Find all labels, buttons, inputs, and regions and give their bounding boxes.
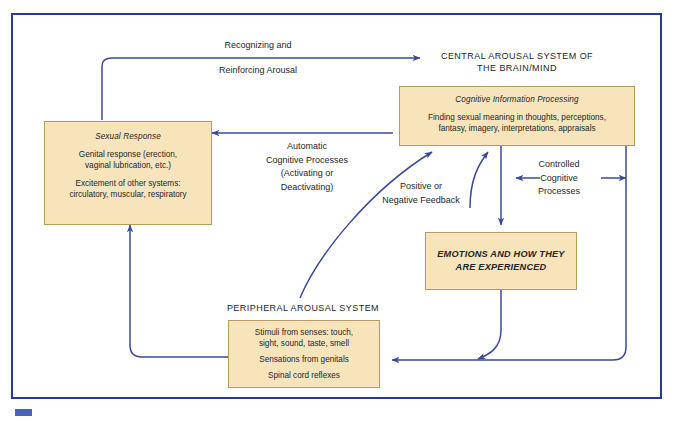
central-heading-line-2: THE BRAIN/MIND: [428, 62, 606, 74]
corner-color-mark: [15, 409, 32, 416]
central-arousal-heading: CENTRAL AROUSAL SYSTEM OF THE BRAIN/MIND: [428, 50, 606, 74]
sexual-response-line-4: circulatory, muscular, respiratory: [45, 189, 211, 200]
label-positive-negative-feedback: Positive or Negative Feedback: [365, 180, 477, 207]
label-reinforcing-arousal: Reinforcing Arousal: [175, 64, 341, 78]
peripheral-arousal-box: Stimuli from senses: touch, sight, sound…: [228, 320, 380, 388]
feedback-line-2: Negative Feedback: [365, 194, 477, 208]
controlled-line-2: Cognitive: [524, 172, 594, 186]
label-recognizing: Recognizing and: [175, 39, 341, 53]
cognitive-box-line-1: Finding sexual meaning in thoughts, perc…: [400, 112, 634, 123]
automatic-line-2: Cognitive Processes: [241, 154, 373, 168]
peripheral-line-3: Sensations from genitals: [229, 354, 379, 365]
automatic-line-1: Automatic: [241, 140, 373, 154]
emotions-line-1: EMOTIONS AND HOW THEY: [437, 248, 564, 261]
automatic-line-4: Deactivating): [241, 181, 373, 195]
sexual-response-title: Sexual Response: [45, 131, 211, 142]
controlled-line-1: Controlled: [524, 158, 594, 172]
sexual-response-line-1: Genital response (erection,: [45, 149, 211, 160]
emotions-box: EMOTIONS AND HOW THEY ARE EXPERIENCED: [425, 232, 577, 290]
sexual-response-line-3: Excitement of other systems:: [45, 178, 211, 189]
label-controlled-cognitive-processes: Controlled Cognitive Processes: [524, 158, 594, 199]
peripheral-arousal-heading: PERIPHERAL AROUSAL SYSTEM: [214, 302, 392, 314]
cognitive-box-title: Cognitive Information Processing: [400, 94, 634, 105]
sexual-response-box: Sexual Response Genital response (erecti…: [44, 121, 212, 225]
emotions-line-2: ARE EXPERIENCED: [456, 261, 547, 274]
feedback-line-1: Positive or: [365, 180, 477, 194]
label-automatic-cognitive-processes: Automatic Cognitive Processes (Activatin…: [241, 140, 373, 194]
diagram-page: CENTRAL AROUSAL SYSTEM OF THE BRAIN/MIND…: [0, 0, 681, 428]
cognitive-information-processing-box: Cognitive Information Processing Finding…: [399, 86, 635, 146]
peripheral-line-4: Spinal cord reflexes: [229, 370, 379, 381]
automatic-line-3: (Activating or: [241, 167, 373, 181]
central-heading-line-1: CENTRAL AROUSAL SYSTEM OF: [428, 50, 606, 62]
cognitive-box-line-2: fantasy, imagery, interpretations, appra…: [400, 123, 634, 134]
peripheral-line-2: sight, sound, taste, smell: [229, 338, 379, 349]
peripheral-line-1: Stimuli from senses: touch,: [229, 327, 379, 338]
sexual-response-line-2: vaginal lubrication, etc.): [45, 160, 211, 171]
controlled-line-3: Processes: [524, 185, 594, 199]
